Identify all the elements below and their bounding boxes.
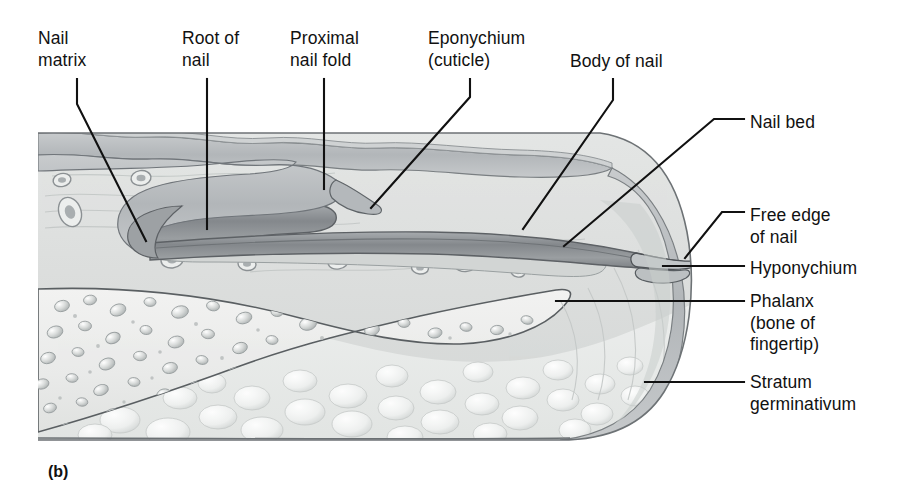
label-free-edge-of-nail-line-1: of nail (750, 227, 831, 249)
label-nail-bed-line-0: Nail bed (750, 112, 815, 134)
figure-caption: (b) (48, 463, 68, 481)
label-stratum-germinativum-line-1: germinativum (750, 394, 856, 416)
label-hyponychium-line-0: Hyponychium (750, 258, 857, 280)
nail-anatomy-illustration (0, 0, 919, 498)
label-phalanx-line-0: Phalanx (750, 291, 819, 313)
label-eponychium-cuticle-line-1: (cuticle) (428, 50, 525, 72)
label-free-edge-of-nail-line-0: Free edge (750, 205, 831, 227)
label-body-of-nail-line-0: Body of nail (570, 51, 663, 73)
label-free-edge-of-nail: Free edgeof nail (750, 205, 831, 248)
label-stratum-germinativum: Stratumgerminativum (750, 372, 856, 415)
label-proximal-nail-fold: Proximalnail fold (290, 28, 359, 71)
label-nail-bed: Nail bed (750, 112, 815, 134)
label-root-of-nail: Root ofnail (182, 28, 239, 71)
label-hyponychium: Hyponychium (750, 258, 857, 280)
label-eponychium-cuticle-line-0: Eponychium (428, 28, 525, 50)
label-root-of-nail-line-1: nail (182, 50, 239, 72)
label-stratum-germinativum-line-0: Stratum (750, 372, 856, 394)
tissue-bottom-edge (38, 438, 570, 439)
label-phalanx-line-2: fingertip) (750, 334, 819, 356)
label-body-of-nail: Body of nail (570, 51, 663, 73)
label-phalanx-line-1: (bone of (750, 313, 819, 335)
label-nail-matrix-line-1: matrix (38, 50, 86, 72)
label-proximal-nail-fold-line-1: nail fold (290, 50, 359, 72)
label-root-of-nail-line-0: Root of (182, 28, 239, 50)
label-proximal-nail-fold-line-0: Proximal (290, 28, 359, 50)
label-phalanx: Phalanx(bone offingertip) (750, 291, 819, 356)
label-nail-matrix: Nailmatrix (38, 28, 86, 71)
free-edge-leader (685, 212, 744, 258)
nail-anatomy-figure (0, 0, 919, 498)
label-eponychium-cuticle: Eponychium(cuticle) (428, 28, 525, 71)
label-nail-matrix-line-0: Nail (38, 28, 86, 50)
tissue-block (30, 125, 710, 460)
